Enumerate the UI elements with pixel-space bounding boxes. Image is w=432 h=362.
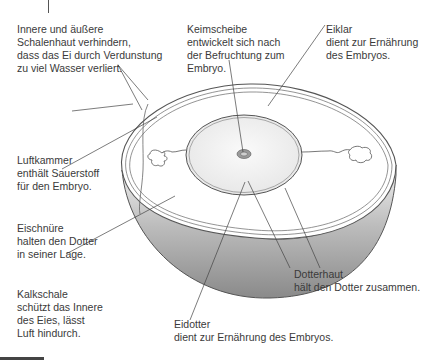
label-keimscheibe: Keimscheibe entwickelt sich nach der Bef… xyxy=(187,23,284,75)
label-eischnuere: Eischnüre halten den Dotter in seiner La… xyxy=(17,222,98,261)
germinal-disc xyxy=(237,150,251,159)
label-eiklar: Eiklar dient zur Ernährung des Embryos. xyxy=(326,23,418,62)
label-schalenhaut: Innere und äußere Schalenhaut verhindern… xyxy=(17,23,162,75)
label-kalkschale: Kalkschale schützt das Innere des Eies, … xyxy=(17,288,103,340)
bottom-divider xyxy=(0,357,44,360)
egg-diagram: Innere und äußere Schalenhaut verhindern… xyxy=(0,0,432,362)
label-dotterhaut: Dotterhaut hält den Dotter zusammen. xyxy=(294,268,420,294)
label-luftkammer: Luftkammer enthält Sauerstoff für den Em… xyxy=(17,154,99,193)
label-eidotter: Eidotter dient zur Ernährung des Embryos… xyxy=(174,318,333,344)
